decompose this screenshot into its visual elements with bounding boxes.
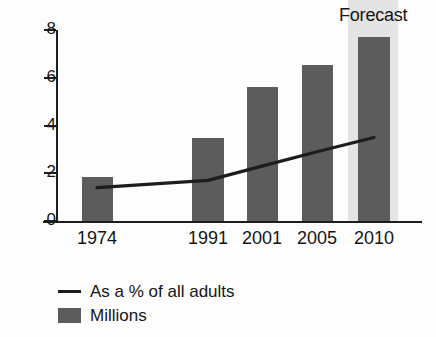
bar	[82, 177, 113, 221]
x-axis-label: 1991	[188, 228, 228, 249]
x-axis-label: 1974	[77, 228, 117, 249]
legend-line-swatch-icon	[58, 290, 81, 293]
y-axis-tick-label: 4	[30, 116, 56, 133]
y-axis-tick-label: 0	[30, 211, 56, 228]
bar	[358, 37, 390, 221]
x-axis-label: 2005	[297, 228, 337, 249]
x-axis-line	[43, 221, 422, 223]
legend-item-label: Millions	[90, 307, 147, 324]
y-axis-tick-label: 8	[30, 20, 56, 37]
legend-item-percent: As a % of all adults	[58, 280, 235, 302]
y-axis-tick: 2	[0, 172, 56, 174]
forecast-annotation-label: Forecast	[339, 5, 407, 26]
legend-square-swatch-icon	[58, 308, 81, 323]
x-axis-label: 2001	[242, 228, 282, 249]
bar	[247, 87, 278, 221]
y-axis-tick-label: 6	[30, 68, 56, 85]
bar	[302, 65, 333, 221]
y-axis-line	[56, 30, 58, 223]
legend-item-label: As a % of all adults	[90, 283, 235, 300]
y-axis-tick: 6	[0, 77, 56, 79]
chart-container: Forecast 02468 19741991200120052010 As a…	[0, 0, 436, 337]
y-axis-tick: 8	[0, 29, 56, 31]
legend-item-millions: Millions	[58, 304, 235, 326]
chart-legend: As a % of all adults Millions	[58, 280, 235, 328]
y-axis-tick-label: 2	[30, 163, 56, 180]
x-axis-label: 2010	[354, 228, 394, 249]
y-axis-tick: 4	[0, 125, 56, 127]
bar	[192, 138, 224, 221]
